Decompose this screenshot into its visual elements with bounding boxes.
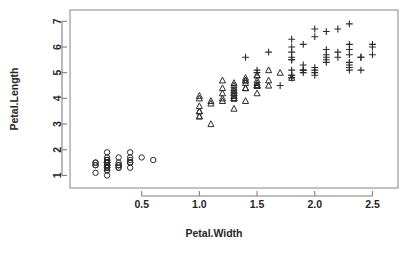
y-tick-label-1: 1 <box>51 172 63 178</box>
y-tick-label-5: 5 <box>51 70 63 76</box>
x-tick-label-0.5: 0.5 <box>134 198 149 210</box>
scatter-plot-figure: 1234567 0.51.01.52.02.5 Petal.Length Pet… <box>0 0 414 253</box>
y-tick-label-3: 3 <box>51 121 63 127</box>
y-tick-label-7: 7 <box>51 18 63 24</box>
x-axis-title: Petal.Width <box>185 227 242 239</box>
x-tick-label-2.0: 2.0 <box>307 198 322 210</box>
y-tick-label-2: 2 <box>51 147 63 153</box>
y-axis-title: Petal.Length <box>8 67 20 130</box>
x-tick-label-1.5: 1.5 <box>250 198 265 210</box>
x-tick-label-1.0: 1.0 <box>192 198 207 210</box>
plot-canvas: 1234567 0.51.01.52.02.5 Petal.Length Pet… <box>0 0 414 253</box>
y-tick-label-6: 6 <box>51 44 63 50</box>
y-tick-label-4: 4 <box>51 95 63 101</box>
x-tick-label-2.5: 2.5 <box>365 198 380 210</box>
